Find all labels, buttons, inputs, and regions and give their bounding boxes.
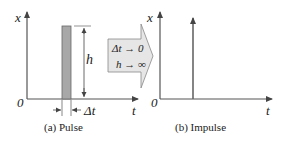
panel-a-y-axis-label: x [15, 11, 21, 24]
panel-a-origin-label: 0 [17, 96, 24, 109]
pulse-rectangle [62, 26, 71, 99]
panel-b-axes [160, 12, 272, 99]
transition-line-1: Δt → 0 [112, 43, 144, 54]
height-label: h [86, 53, 93, 67]
panel-b-caption: (b) Impulse [175, 122, 226, 133]
transition-line-2: h → ∞ [116, 59, 146, 70]
panel-b-origin-label: 0 [151, 96, 158, 109]
width-dimension [53, 100, 81, 116]
panel-a-caption: (a) Pulse [44, 122, 83, 133]
panel-b-x-axis-label: t [266, 104, 270, 117]
width-label: Δt [84, 104, 95, 117]
panel-b-y-axis-label: x [147, 11, 153, 24]
panel-a-x-axis-label: t [132, 104, 136, 117]
transition-arrow [108, 24, 153, 88]
